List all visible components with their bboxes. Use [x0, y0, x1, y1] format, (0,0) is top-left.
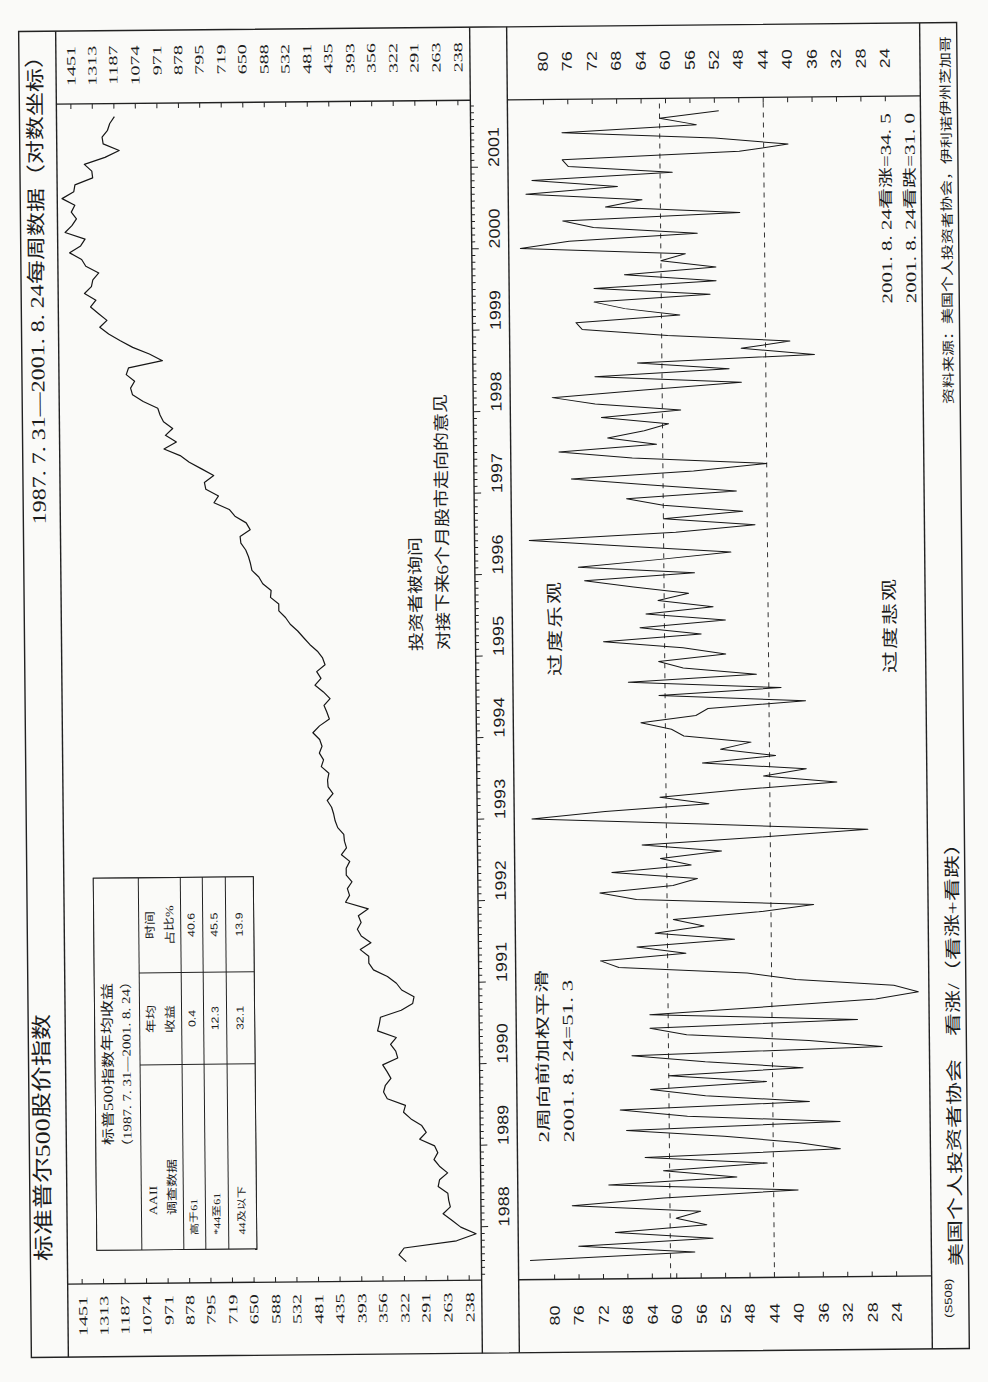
sentiment-axis-label-left: 28	[861, 1302, 885, 1378]
price-axis-label-left: 238	[460, 1292, 479, 1382]
aaii-sentiment-line	[519, 109, 921, 1260]
returns-table: 标普500指数年均收益 （1987. 7. 31—2001. 8. 24） AA…	[93, 876, 258, 1251]
price-axis-label-left: 1187	[116, 1295, 135, 1382]
source-note: 资料来源：美国个人投资者协会，伊利诺伊州芝加哥	[934, 36, 962, 404]
price-axis-label-right: 1187	[104, 46, 123, 104]
year-axis-label: 1990	[489, 1023, 515, 1063]
table-period: （1987. 7. 31—2001. 8. 24）	[119, 974, 136, 1154]
smoothing-note-line1: 2周向前加权平滑	[533, 970, 554, 1143]
sentiment-axis-label-left: 60	[665, 1304, 689, 1380]
price-axis-label-left: 532	[288, 1294, 307, 1382]
sentiment-axis-label-right: 68	[604, 51, 628, 99]
row-time-share: 13.9	[232, 912, 247, 936]
price-axis-label-right: 795	[190, 45, 209, 103]
table-row-share: 45.5	[203, 878, 226, 972]
row-time-share: 40.6	[184, 913, 199, 937]
price-axis-label-right: 291	[405, 43, 424, 101]
price-axis-label-right: 878	[169, 45, 188, 103]
sentiment-axis-label-left: 52	[714, 1304, 738, 1380]
price-axis-label-left: 1313	[94, 1296, 113, 1382]
price-axis-label-left: 719	[223, 1294, 242, 1382]
chart-subtitle: 1987. 7. 31—2001. 8. 24每周数据（对数坐标）	[23, 44, 52, 524]
price-axis-label-left: 650	[245, 1294, 264, 1382]
year-axis-label: 1998	[483, 371, 509, 411]
header-time-share-line2: 占比%	[161, 905, 177, 945]
sentiment-axis-label-right: 32	[824, 49, 848, 97]
sentiment-axis-label-right: 36	[800, 49, 824, 97]
survey-note-line2: 对接下来6个月股市走向的意见	[428, 394, 456, 651]
figure-content: 标准普尔500股价指数 1987. 7. 31—2001. 8. 24每周数据（…	[0, 0, 988, 1382]
survey-note-line1: 投资者被询问	[403, 537, 430, 651]
sentiment-axis-label-left: 32	[836, 1303, 860, 1379]
price-axis-label-left: 291	[417, 1293, 436, 1382]
price-axis-label-right: 1074	[125, 45, 144, 103]
year-axis-label: 1997	[484, 453, 510, 493]
sentiment-axis-label-right: 80	[531, 51, 555, 99]
header-survey-line1: AAII	[145, 1186, 160, 1216]
panel-divider	[507, 27, 520, 1353]
header-time-share-line1: 时间	[142, 911, 157, 939]
panel-divider	[56, 31, 69, 1357]
over-pessimistic-label: 过度悲观	[879, 577, 902, 673]
price-axis-label-right: 238	[448, 42, 467, 100]
price-axis-label-left: 1074	[137, 1295, 156, 1382]
year-axis-label: 1995	[486, 616, 512, 656]
header-survey-line2: 调查数据	[164, 1159, 180, 1215]
sentiment-axis-label-right: 24	[873, 48, 897, 96]
over-optimistic-label: 过度乐观	[544, 580, 567, 676]
table-row-range: 高于61	[183, 1065, 206, 1249]
indicator-title: 美国个人投资者协会 看涨/（看涨+看跌）	[942, 832, 968, 1266]
row-range-label: *44至61	[209, 1193, 225, 1249]
header-annual-return-line2: 收益	[162, 1005, 177, 1033]
latest-bearish-reading: 2001. 8. 24看跌=31. 0	[899, 113, 922, 304]
sentiment-axis-label-left: 76	[568, 1305, 592, 1381]
year-axis-label: 1993	[487, 779, 513, 819]
sentiment-axis-label-right: 60	[653, 50, 677, 98]
table-row-return: 32.1	[227, 972, 255, 1063]
table-row-return: 0.4	[182, 973, 204, 1064]
row-annual-return: 0.4	[185, 1010, 200, 1028]
row-annual-return: 12.3	[207, 1006, 222, 1030]
price-axis-label-left: 263	[439, 1292, 458, 1382]
year-axis-label: 1992	[488, 860, 514, 900]
year-axis-label: 1999	[482, 290, 508, 330]
row-range-label: 44及以下	[235, 1186, 251, 1248]
row-range-label: 高于61	[187, 1199, 203, 1249]
price-axis-label-left: 795	[202, 1295, 221, 1382]
figure-code: (S508)	[937, 1279, 961, 1318]
price-axis-label-right: 263	[427, 42, 446, 100]
price-axis-label-right: 322	[383, 43, 402, 101]
table-row-return: 12.3	[204, 973, 227, 1064]
row-time-share: 45.5	[207, 912, 222, 936]
sentiment-axis-label-right: 40	[775, 49, 799, 97]
panel-divider	[470, 27, 483, 1353]
price-axis-label-right: 393	[341, 43, 360, 101]
year-axis-label: 1994	[486, 697, 512, 737]
header-time-share: 时间 占比%	[139, 878, 181, 972]
header-survey: AAII 调查数据	[141, 1065, 184, 1249]
table-row-share: 13.9	[226, 877, 254, 971]
sentiment-axis-label-left: 24	[885, 1302, 909, 1378]
year-axis-label: 1996	[485, 534, 511, 574]
sentiment-axis-label-right: 52	[702, 50, 726, 98]
price-axis-label-right: 1451	[61, 46, 80, 104]
sentiment-axis-label-right: 56	[678, 50, 702, 98]
table-row-range: 44及以下	[228, 1064, 257, 1248]
year-axis-label: 1988	[491, 1186, 517, 1226]
row-annual-return: 32.1	[233, 1006, 248, 1030]
sentiment-axis-label-left: 68	[616, 1305, 640, 1381]
year-axis-label: 2001	[481, 127, 507, 167]
sentiment-axis-label-left: 36	[812, 1303, 836, 1379]
price-axis-label-left: 393	[353, 1293, 372, 1382]
price-axis-label-left: 588	[266, 1294, 285, 1382]
table-row-share: 40.6	[181, 878, 203, 972]
sentiment-axis-label-right: 28	[849, 48, 873, 96]
sentiment-axis-label-left: 72	[592, 1305, 616, 1381]
price-axis-label-right: 588	[254, 44, 273, 102]
chart-title: 标准普尔500股价指数	[30, 1014, 56, 1261]
sentiment-axis-label-right: 64	[629, 50, 653, 98]
table-title: 标普500指数年均收益	[100, 983, 117, 1145]
price-axis-label-right: 719	[211, 45, 230, 103]
price-axis-label-right: 356	[362, 43, 381, 101]
sentiment-axis-label-left: 40	[787, 1303, 811, 1379]
